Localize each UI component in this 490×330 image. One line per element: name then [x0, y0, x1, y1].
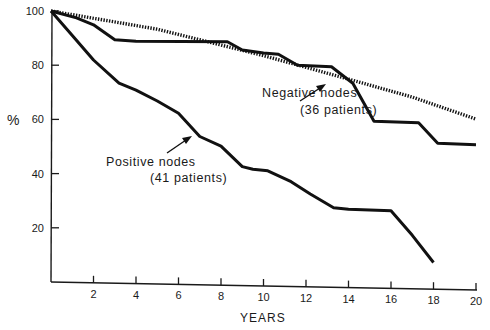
- annotation-positive-line2: (41 patients): [150, 171, 227, 185]
- annotation-positive-line1: Positive nodes: [106, 155, 196, 169]
- x-tick-label-12: 12: [300, 292, 312, 304]
- survival-chart: 20406080100 2468101214161820 % YEARS Neg…: [0, 0, 490, 330]
- x-tick-label-8: 8: [218, 290, 224, 302]
- annotation-positive-arrow: [167, 140, 186, 153]
- y-tick-label-20: 20: [32, 222, 44, 234]
- y-axis: [51, 11, 52, 282]
- y-tick-label-80: 80: [32, 59, 44, 71]
- y-tick-label-40: 40: [32, 168, 44, 180]
- y-tick-label-100: 100: [26, 5, 44, 17]
- x-tick-label-6: 6: [175, 289, 181, 301]
- x-axis-title: YEARS: [240, 311, 286, 325]
- annotations: Negative nodes (36 patients) Positive no…: [106, 84, 377, 185]
- x-ticks: 2468101214161820: [90, 276, 482, 307]
- x-tick-label-16: 16: [385, 293, 397, 305]
- y-tick-label-60: 60: [32, 113, 44, 125]
- x-tick-label-14: 14: [342, 293, 354, 305]
- series-group: [51, 11, 476, 263]
- x-tick-label-20: 20: [470, 295, 482, 307]
- x-tick-label-4: 4: [133, 289, 139, 301]
- series-line-expected-reference: [51, 11, 476, 119]
- annotation-positive-arrowhead: [182, 136, 192, 144]
- annotation-negative-line2: (36 patients): [300, 103, 377, 117]
- annotation-negative-line1: Negative nodes: [262, 86, 357, 100]
- y-ticks: 20406080100: [26, 5, 59, 234]
- x-tick-label-18: 18: [427, 294, 439, 306]
- x-tick-label-10: 10: [257, 291, 269, 303]
- y-axis-label: %: [7, 112, 19, 128]
- x-tick-label-2: 2: [90, 288, 96, 300]
